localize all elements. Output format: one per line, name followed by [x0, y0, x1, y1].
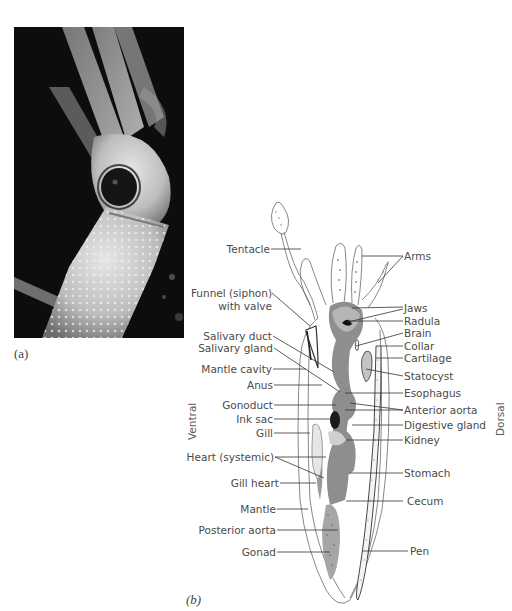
orientation-ventral: Ventral — [186, 403, 198, 440]
label-cartilage: Cartilage — [404, 352, 452, 364]
label-mantle: Mantle — [240, 503, 276, 515]
label-esophagus: Esophagus — [404, 387, 461, 399]
label-pen: Pen — [410, 545, 429, 557]
label-heart-systemic: Heart (systemic) — [187, 451, 274, 463]
label-collar: Collar — [404, 340, 434, 352]
label-jaws: Jaws — [404, 302, 428, 314]
label-gonad: Gonad — [242, 546, 276, 558]
label-funnel-valve: with valve — [218, 300, 272, 312]
label-gill: Gill — [256, 427, 273, 439]
label-anus: Anus — [247, 379, 273, 391]
orientation-dorsal: Dorsal — [494, 402, 506, 436]
label-posterior-aorta: Posterior aorta — [199, 524, 276, 536]
panel-b-label: (b) — [186, 592, 201, 608]
label-stomach: Stomach — [404, 467, 450, 479]
label-salivary-gland: Salivary gland — [198, 342, 273, 354]
label-kidney: Kidney — [404, 434, 440, 446]
label-mantle-cavity: Mantle cavity — [201, 363, 272, 375]
label-anterior-aorta: Anterior aorta — [404, 404, 477, 416]
gonad-shape — [322, 504, 340, 580]
label-gonoduct: Gonoduct — [222, 399, 273, 411]
label-cecum: Cecum — [407, 495, 443, 507]
cartilage-shape — [362, 351, 373, 382]
label-digestive-gland: Digestive gland — [404, 419, 486, 431]
arm-suckers — [275, 211, 384, 293]
label-ink-sac: Ink sac — [236, 413, 273, 425]
label-salivary-duct: Salivary duct — [203, 330, 272, 342]
label-gill-heart: Gill heart — [231, 477, 279, 489]
gill-shape — [312, 424, 323, 480]
label-radula: Radula — [404, 315, 440, 327]
ink-sac-shape — [330, 411, 340, 429]
label-funnel: Funnel (siphon) — [191, 287, 272, 299]
label-statocyst: Statocyst — [404, 370, 453, 382]
label-brain: Brain — [404, 327, 432, 339]
label-tentacle: Tentacle — [227, 243, 270, 255]
label-arms: Arms — [404, 250, 431, 262]
